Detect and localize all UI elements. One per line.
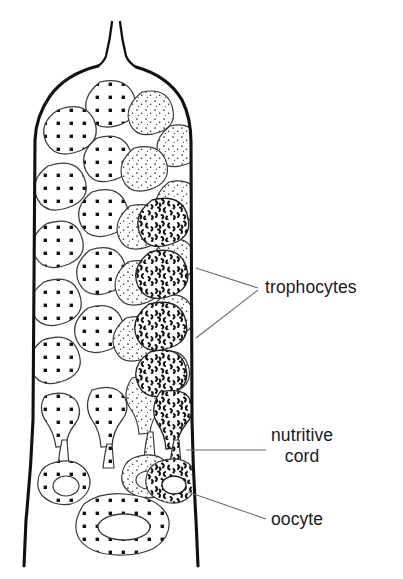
oocyte-large-nucleus	[98, 514, 150, 540]
label-oocyte: oocyte	[271, 509, 323, 530]
cell-squig-3	[135, 302, 187, 350]
cell-bold-10	[30, 337, 81, 383]
oocyte-nucleus-1	[53, 476, 79, 496]
cell-bold-6	[33, 221, 84, 267]
cell-squig-4	[136, 350, 187, 396]
cell-squig-1	[138, 198, 189, 246]
oocyte-nucleus-3	[162, 476, 186, 494]
label-nutritive-cord: nutritive cord	[271, 425, 333, 467]
cell-squig-2	[136, 250, 188, 298]
cell-bold-8	[31, 279, 82, 325]
label-nutritive-cord-line2: cord	[271, 446, 333, 467]
label-nutritive-cord-line1: nutritive	[271, 425, 333, 445]
label-trophocytes: trophocytes	[265, 277, 357, 298]
cell-fine-3	[121, 147, 167, 192]
